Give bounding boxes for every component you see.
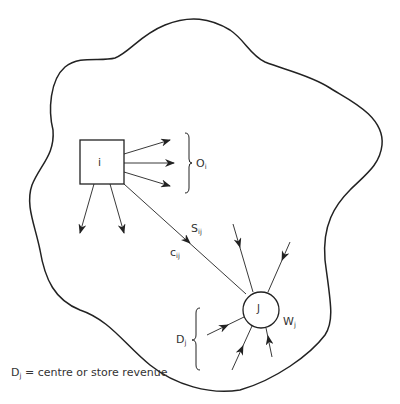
flow-label: Sij <box>191 222 202 236</box>
region-boundary <box>30 19 383 391</box>
demand-label: Dj <box>176 333 186 347</box>
destination-label: J <box>257 303 260 314</box>
demand-brace <box>192 308 200 370</box>
origin-label: i <box>98 156 101 169</box>
destination-node <box>243 292 279 328</box>
outflow-label: Oi <box>196 157 207 171</box>
origin-node <box>80 140 124 184</box>
attractiveness-label: Wj <box>283 315 296 329</box>
cost-label: cij <box>170 246 180 260</box>
outflow-brace <box>185 133 192 193</box>
caption: Dj = centre or store revenue <box>11 366 167 380</box>
spatial-interaction-diagram <box>0 0 400 404</box>
